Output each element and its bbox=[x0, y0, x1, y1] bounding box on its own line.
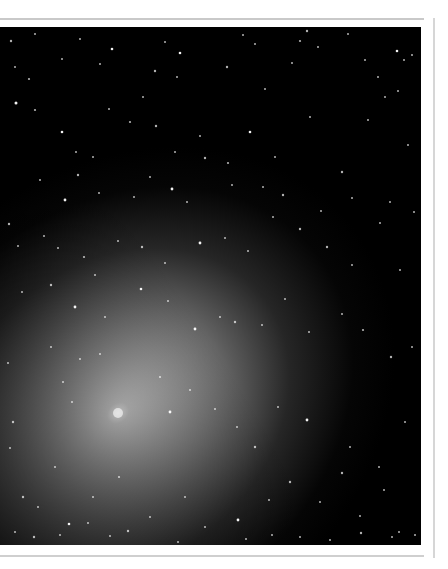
star bbox=[347, 33, 349, 35]
star bbox=[389, 201, 391, 203]
star bbox=[289, 481, 291, 483]
star bbox=[309, 116, 311, 118]
star bbox=[299, 536, 301, 538]
star bbox=[98, 192, 100, 194]
star bbox=[171, 188, 174, 191]
star bbox=[306, 419, 309, 422]
star bbox=[379, 222, 381, 224]
star bbox=[291, 62, 293, 64]
star bbox=[284, 298, 286, 300]
star bbox=[28, 78, 30, 80]
star bbox=[61, 131, 64, 134]
star bbox=[108, 108, 110, 110]
frame-right-rule bbox=[433, 18, 435, 558]
star bbox=[92, 496, 94, 498]
star bbox=[127, 530, 129, 532]
star bbox=[341, 171, 343, 173]
star bbox=[149, 176, 151, 178]
star bbox=[117, 240, 119, 242]
star-field bbox=[0, 27, 421, 545]
star bbox=[349, 446, 351, 448]
star bbox=[245, 538, 247, 540]
star bbox=[61, 58, 63, 60]
star bbox=[249, 131, 252, 134]
star bbox=[359, 515, 361, 517]
star bbox=[247, 250, 249, 252]
star bbox=[272, 216, 274, 218]
star bbox=[64, 199, 67, 202]
star bbox=[133, 196, 135, 198]
star bbox=[8, 223, 10, 225]
star bbox=[384, 96, 386, 98]
star bbox=[140, 288, 143, 291]
star bbox=[177, 541, 179, 543]
corner-shading bbox=[0, 27, 421, 545]
star bbox=[329, 539, 331, 541]
star bbox=[299, 228, 301, 230]
star bbox=[50, 284, 52, 286]
star bbox=[282, 194, 284, 196]
star bbox=[306, 30, 308, 32]
star bbox=[39, 179, 41, 181]
star bbox=[189, 389, 191, 391]
star bbox=[204, 526, 206, 528]
star bbox=[75, 151, 77, 153]
star bbox=[164, 41, 166, 43]
star bbox=[231, 184, 233, 186]
star bbox=[262, 186, 264, 188]
star bbox=[79, 358, 81, 360]
star bbox=[326, 246, 328, 248]
star bbox=[176, 76, 178, 78]
star bbox=[317, 46, 319, 48]
star bbox=[319, 501, 321, 503]
star bbox=[194, 328, 197, 331]
star bbox=[111, 48, 114, 51]
star bbox=[274, 156, 276, 158]
star bbox=[351, 264, 353, 266]
star bbox=[403, 59, 405, 61]
star bbox=[367, 119, 369, 121]
star bbox=[383, 489, 385, 491]
star bbox=[34, 33, 36, 35]
star bbox=[268, 499, 270, 501]
star bbox=[68, 523, 71, 526]
star bbox=[377, 76, 379, 78]
frame-top-rule bbox=[0, 18, 424, 20]
star bbox=[390, 356, 392, 358]
star bbox=[118, 476, 120, 478]
star bbox=[74, 306, 77, 309]
star bbox=[320, 210, 322, 212]
frame-bottom-rule bbox=[0, 555, 424, 557]
star bbox=[396, 50, 399, 53]
star bbox=[254, 43, 256, 45]
star bbox=[261, 324, 263, 326]
star bbox=[199, 242, 202, 245]
star bbox=[22, 496, 24, 498]
comet-photograph bbox=[0, 27, 421, 545]
star bbox=[219, 316, 221, 318]
star bbox=[87, 522, 89, 524]
star bbox=[71, 401, 73, 403]
star bbox=[92, 156, 94, 158]
star bbox=[254, 446, 256, 448]
star bbox=[227, 162, 229, 164]
star bbox=[404, 421, 406, 423]
star bbox=[179, 52, 182, 55]
star bbox=[34, 109, 36, 111]
star bbox=[398, 531, 400, 533]
star bbox=[14, 531, 16, 533]
star bbox=[341, 313, 343, 315]
star bbox=[391, 536, 393, 538]
star bbox=[411, 54, 413, 56]
star bbox=[199, 135, 201, 137]
star bbox=[242, 34, 244, 36]
star bbox=[109, 535, 111, 537]
star bbox=[236, 426, 238, 428]
star bbox=[399, 269, 401, 271]
star bbox=[174, 151, 176, 153]
star bbox=[54, 466, 56, 468]
star bbox=[149, 516, 151, 518]
star bbox=[10, 40, 12, 42]
star bbox=[141, 246, 143, 248]
star bbox=[79, 38, 81, 40]
